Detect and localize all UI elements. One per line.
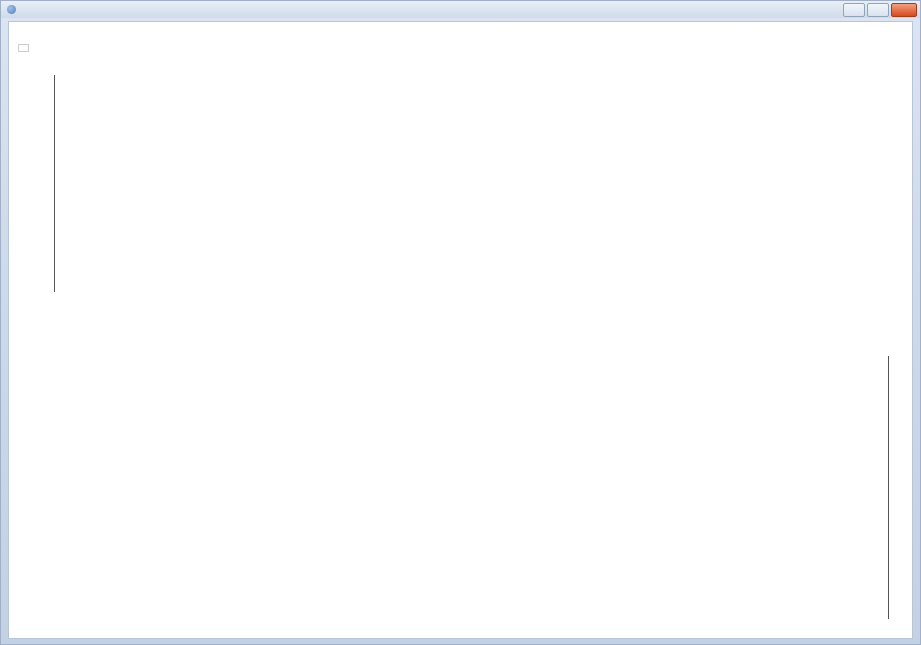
chart-top-barplot	[9, 30, 912, 320]
chart-bottom-plot-area	[56, 356, 882, 619]
r-graphics-window	[0, 0, 921, 645]
minimize-button[interactable]	[843, 3, 865, 17]
r-graphics-icon	[7, 5, 16, 14]
graphics-canvas	[8, 21, 913, 639]
chart-top-y-axis	[54, 75, 55, 292]
chart-bottom-mosaic	[9, 334, 912, 634]
close-button[interactable]	[891, 3, 917, 17]
window-controls	[843, 3, 917, 17]
window-titlebar[interactable]	[1, 1, 920, 18]
chart-bottom-right-axis	[888, 356, 889, 619]
chart-legend	[18, 44, 29, 52]
chart-top-plot-area	[59, 75, 867, 292]
maximize-button[interactable]	[867, 3, 889, 17]
